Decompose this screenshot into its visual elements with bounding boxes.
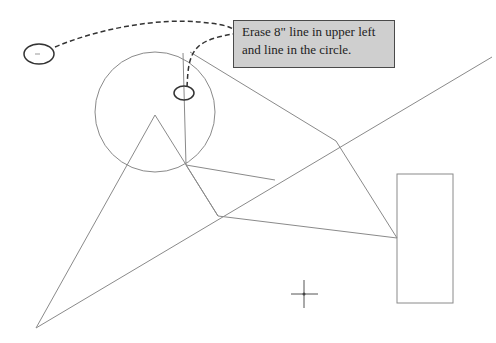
dashed-leader-upper-left [55,21,234,47]
callout-line-1: Erase 8" line in upper left [242,23,392,41]
middle-connector-line [186,165,275,180]
lower-vertex-to-rect-line [218,216,397,238]
triangle-left-edge [36,115,155,328]
callout-note: Erase 8" line in upper left and line in … [233,20,395,68]
large-circle [95,52,215,172]
callout-line-2: and line in the circle. [242,41,392,59]
vertical-line-in-circle [183,53,186,165]
crosshair-center [303,293,306,296]
right-vertex-to-rect-line [336,141,397,238]
dashed-leader-circle [187,34,233,87]
rectangle [397,174,453,303]
junction-to-lower-line [186,165,218,216]
